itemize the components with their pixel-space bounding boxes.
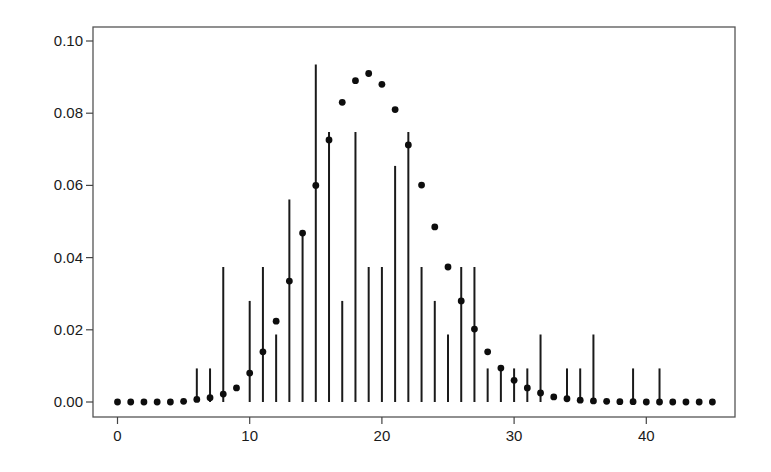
probability-point [326, 137, 333, 144]
probability-point [114, 399, 121, 406]
probability-point [379, 81, 386, 88]
probability-point [405, 142, 412, 149]
probability-point [392, 106, 399, 113]
probability-point [273, 318, 280, 325]
probability-point [431, 224, 438, 231]
x-tick-label: 30 [506, 427, 523, 444]
probability-point [167, 399, 174, 406]
probability-point [445, 264, 452, 271]
x-tick-label: 20 [374, 427, 391, 444]
y-tick-label: 0.06 [54, 176, 83, 193]
probability-point [154, 399, 161, 406]
y-tick-label: 0.04 [54, 249, 83, 266]
x-tick-label: 40 [638, 427, 655, 444]
probability-point [127, 399, 134, 406]
probability-point [709, 399, 716, 406]
y-tick-label: 0.02 [54, 321, 83, 338]
y-axis: 0.000.020.040.060.080.10 [54, 32, 93, 410]
plot-frame [93, 27, 735, 417]
probability-point [683, 399, 690, 406]
probability-point [550, 394, 557, 401]
probability-point [352, 77, 359, 84]
y-tick-label: 0.10 [54, 32, 83, 49]
probability-point [220, 391, 227, 398]
probability-point [193, 396, 200, 403]
probability-point [669, 399, 676, 406]
probability-point [418, 182, 425, 189]
probability-point [524, 385, 531, 392]
y-tick-label: 0.08 [54, 104, 83, 121]
probability-point [260, 348, 267, 355]
probability-point [180, 398, 187, 405]
probability-point [484, 348, 491, 355]
probability-point [696, 399, 703, 406]
probability-point [286, 278, 293, 285]
probability-point [643, 399, 650, 406]
probability-point [497, 365, 504, 372]
probability-point [616, 398, 623, 405]
probability-point [233, 385, 240, 392]
x-tick-label: 0 [113, 427, 121, 444]
probability-point [299, 230, 306, 237]
probability-point [511, 377, 518, 384]
x-axis: 010203040 [113, 417, 654, 444]
probability-point [603, 398, 610, 405]
y-tick-label: 0.00 [54, 393, 83, 410]
probability-point [207, 394, 214, 401]
probability-point [537, 390, 544, 397]
probability-point [630, 398, 637, 405]
probability-point [564, 395, 571, 402]
probability-point [577, 397, 584, 404]
probability-point [458, 298, 465, 305]
chart: 0.000.020.040.060.080.10 010203040 [0, 0, 771, 472]
probability-point [471, 326, 478, 333]
probability-point [365, 70, 372, 77]
probability-point [590, 398, 597, 405]
probability-point [246, 370, 253, 377]
fitted-probability-points [114, 70, 716, 405]
probability-point [339, 99, 346, 106]
probability-point [656, 399, 663, 406]
probability-point [141, 399, 148, 406]
probability-point [312, 182, 319, 189]
x-tick-label: 10 [241, 427, 258, 444]
